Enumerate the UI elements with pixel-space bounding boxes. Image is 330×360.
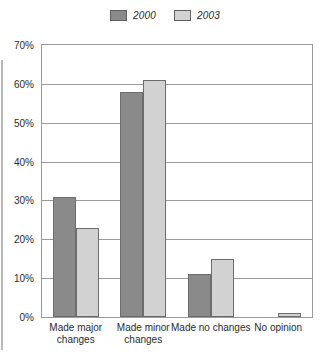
- legend-swatch-icon: [174, 10, 191, 21]
- bar: [76, 228, 99, 317]
- legend-entry: 2003: [174, 10, 220, 21]
- legend-entry: 2000: [110, 10, 156, 21]
- bar: [211, 259, 234, 317]
- legend-swatch-icon: [110, 10, 127, 21]
- bar: [278, 313, 301, 317]
- y-axis-tick-label: 60%: [0, 78, 34, 89]
- y-axis-tick-label: 70%: [0, 40, 34, 51]
- bar-group: [255, 45, 301, 317]
- y-axis-tick-label: 50%: [0, 117, 34, 128]
- bar: [53, 197, 76, 317]
- y-axis-tick-label: 20%: [0, 234, 34, 245]
- x-axis-category-label: No opinion: [235, 322, 321, 334]
- y-axis-tick-label: 10%: [0, 273, 34, 284]
- bar: [143, 80, 166, 317]
- legend-label: 2003: [197, 10, 220, 21]
- y-axis-tick-label: 40%: [0, 156, 34, 167]
- bar-group: [188, 45, 234, 317]
- bars-layer: [42, 45, 312, 317]
- bar: [120, 92, 143, 317]
- y-axis-tick-label: 0%: [0, 312, 34, 323]
- legend-label: 2000: [133, 10, 156, 21]
- y-axis-tick-label: 30%: [0, 195, 34, 206]
- chart-legend: 20002003: [0, 10, 330, 21]
- bar: [188, 274, 211, 317]
- bar-group: [120, 45, 166, 317]
- x-axis: Made major changesMade minor changesMade…: [42, 322, 312, 356]
- grouped-bar-chart: 20002003 0%10%20%30%40%50%60%70% Made ma…: [0, 0, 330, 360]
- bar-group: [53, 45, 99, 317]
